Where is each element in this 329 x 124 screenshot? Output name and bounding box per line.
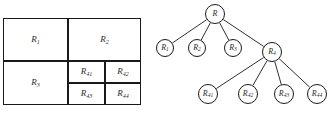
tree-node-r: R xyxy=(205,4,225,24)
region-r42: R42 xyxy=(105,61,141,83)
tree-node-r42: R42 xyxy=(238,84,258,104)
region-r1: R1 xyxy=(3,18,68,61)
tree-node-r2: R2 xyxy=(188,39,206,57)
region-r41: R41 xyxy=(68,61,105,83)
region-r2: R2 xyxy=(68,18,141,61)
tree-node-label-r43: R43 xyxy=(279,90,289,99)
tree-node-label-r4: R4 xyxy=(268,48,276,57)
region-label-r2: R2 xyxy=(100,35,109,45)
tree-edge-r4-r44 xyxy=(279,59,309,87)
tree-edge-r4-r43 xyxy=(275,62,282,85)
tree-node-r1: R1 xyxy=(156,39,174,57)
tree-node-r43: R43 xyxy=(274,84,294,104)
region-hierarchy-tree: RR1R2R3R4R41R42R43R44 xyxy=(160,0,329,124)
tree-node-label-r44: R44 xyxy=(312,90,322,99)
tree-node-r44: R44 xyxy=(307,84,327,104)
tree-node-r41: R41 xyxy=(198,84,218,104)
tree-edge-layer xyxy=(160,0,329,124)
tree-node-label-r1: R1 xyxy=(161,44,169,53)
tree-node-r4: R4 xyxy=(262,42,282,62)
region-partition-diagram: R1R2R3R41R42R43R44 xyxy=(0,0,160,124)
region-r3: R3 xyxy=(3,61,68,105)
tree-node-label-r41: R41 xyxy=(203,90,213,99)
tree-edge-r4-r42 xyxy=(253,61,267,86)
figure-root: R1R2R3R41R42R43R44 RR1R2R3R4R41R42R43R44 xyxy=(0,0,329,124)
region-label-r43: R43 xyxy=(81,89,93,99)
tree-edge-r4-r41 xyxy=(216,57,263,88)
tree-node-r3: R3 xyxy=(224,39,242,57)
tree-node-label-r2: R2 xyxy=(193,44,201,53)
tree-node-label-r: R xyxy=(213,10,218,18)
tree-node-label-r42: R42 xyxy=(243,90,253,99)
region-label-r42: R42 xyxy=(117,67,129,77)
tree-edge-r-r3 xyxy=(220,23,229,40)
region-label-r3: R3 xyxy=(31,78,40,88)
tree-node-label-r3: R3 xyxy=(229,44,237,53)
tree-edge-r-r2 xyxy=(201,23,210,40)
region-label-r1: R1 xyxy=(31,35,40,45)
region-r43: R43 xyxy=(68,83,105,105)
region-label-r44: R44 xyxy=(117,89,129,99)
region-r44: R44 xyxy=(105,83,141,105)
region-label-r41: R41 xyxy=(81,67,93,77)
